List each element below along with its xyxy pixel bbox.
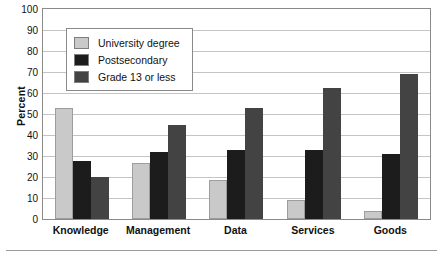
chart-legend: University degreePostsecondaryGrade 13 o…: [66, 28, 193, 91]
y-tick-label: 100: [8, 4, 38, 15]
bar: [364, 211, 382, 219]
bar-group: [353, 9, 430, 219]
bar: [400, 74, 418, 219]
bar: [91, 177, 109, 219]
legend-label: Postsecondary: [98, 54, 167, 66]
bar: [168, 125, 186, 220]
y-tick-label: 60: [8, 88, 38, 99]
y-tick-label: 20: [8, 172, 38, 183]
x-axis-tick-labels: KnowledgeManagementDataServicesGoods: [42, 224, 431, 240]
legend-label: Grade 13 or less: [98, 71, 176, 83]
legend-swatch: [74, 71, 89, 83]
x-tick-label: Data: [224, 224, 247, 236]
bar: [287, 200, 305, 219]
bar: [150, 152, 168, 219]
legend-swatch: [74, 54, 89, 66]
x-tick-label: Knowledge: [53, 224, 109, 236]
bar: [323, 88, 341, 219]
x-tick-label: Goods: [374, 224, 407, 236]
y-tick-label: 90: [8, 25, 38, 36]
legend-swatch: [74, 37, 89, 49]
legend-item: Grade 13 or less: [74, 68, 180, 85]
y-axis-tick-labels: 0102030405060708090100: [8, 8, 38, 220]
bar: [132, 163, 150, 219]
bar: [382, 154, 400, 219]
legend-item: University degree: [74, 34, 180, 51]
y-tick-label: 70: [8, 67, 38, 78]
legend-label: University degree: [98, 37, 180, 49]
bar: [305, 150, 323, 219]
bar: [55, 108, 73, 219]
legend-item: Postsecondary: [74, 51, 180, 68]
y-tick-label: 80: [8, 46, 38, 57]
y-tick-label: 0: [8, 214, 38, 225]
x-tick-label: Management: [126, 224, 190, 236]
y-tick-label: 30: [8, 151, 38, 162]
bar: [245, 108, 263, 219]
bar-group: [198, 9, 275, 219]
y-tick-label: 10: [8, 193, 38, 204]
bar: [209, 180, 227, 219]
y-tick-label: 40: [8, 130, 38, 141]
bar: [73, 161, 91, 219]
bar-chart: Percent 0102030405060708090100 Knowledge…: [0, 0, 443, 264]
bar-group: [275, 9, 352, 219]
bar: [227, 150, 245, 219]
bottom-divider: [6, 250, 437, 251]
x-tick-label: Services: [291, 224, 334, 236]
y-tick-label: 50: [8, 109, 38, 120]
